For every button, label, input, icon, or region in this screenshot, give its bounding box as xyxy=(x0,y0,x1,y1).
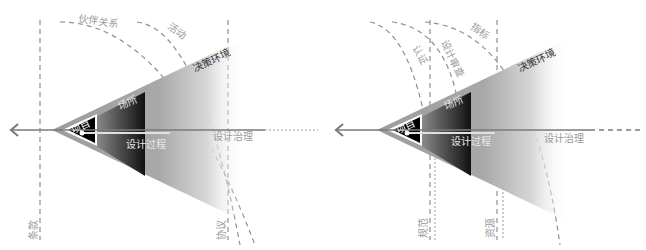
certification-label: 认证 xyxy=(410,43,430,66)
resources-label: 资源 xyxy=(484,218,496,238)
indicators-label: 指标 xyxy=(469,20,492,41)
design-governance-label: 设计治理 xyxy=(213,130,253,142)
design-process-label: 设计过程 xyxy=(126,138,166,150)
agreement-label: 协议 xyxy=(215,220,227,240)
diagram-canvas: 伙伴关系 活动 决策环境 场所 项目 设计过程 设计治理 条款 协议 指标 认证 xyxy=(0,0,646,250)
activity-label: 活动 xyxy=(166,21,189,41)
design-process-label: 设计过程 xyxy=(451,135,491,147)
left-diagram: 伙伴关系 活动 决策环境 场所 项目 设计过程 设计治理 条款 协议 xyxy=(10,12,318,245)
right-diagram: 指标 认证 设计审查 决策环境 场所 项目 设计过程 设计治理 规范 资源 xyxy=(335,20,643,245)
design-governance-label: 设计治理 xyxy=(544,132,584,144)
norms-label: 规范 xyxy=(417,218,429,238)
partnership-label: 伙伴关系 xyxy=(78,12,119,29)
clause-label: 条款 xyxy=(27,220,39,240)
